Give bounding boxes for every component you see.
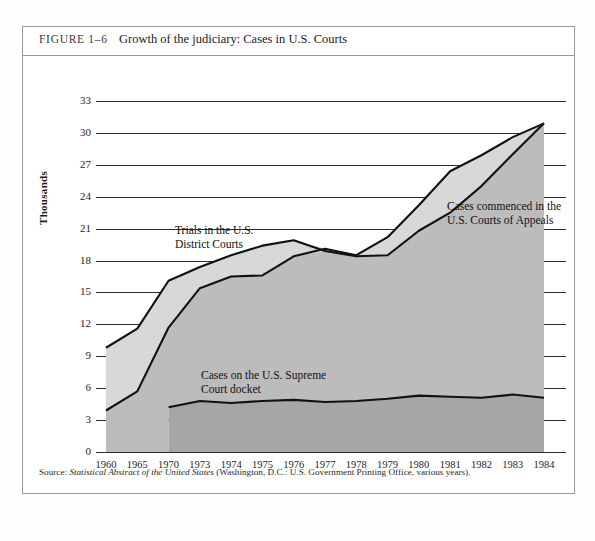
figure-title: Growth of the judiciary: Cases in U.S. C… (119, 32, 347, 47)
annotation-appeals: Cases commenced in the U.S. Courts of Ap… (447, 199, 561, 227)
figure-number-label: FIGURE 1–6 (39, 33, 108, 45)
figure-page: FIGURE 1–6 Growth of the judiciary: Case… (0, 0, 595, 541)
annotation-supreme-line2: Court docket (201, 382, 326, 396)
annotation-supreme-court: Cases on the U.S. Supreme Court docket (201, 368, 326, 396)
source-note: Source: Statistical Abstract of the Unit… (39, 467, 470, 477)
annotation-appeals-line2: U.S. Courts of Appeals (447, 213, 561, 227)
figure-frame: FIGURE 1–6 Growth of the judiciary: Case… (22, 26, 575, 494)
annotation-supreme-line1: Cases on the U.S. Supreme (201, 368, 326, 382)
annotation-district-courts: Trials in the U.S. District Courts (175, 223, 254, 251)
chart-plot-area: Thousands Years 03691215182124273033 196… (23, 55, 574, 463)
annotation-appeals-line1: Cases commenced in the (447, 199, 561, 213)
annotation-district-line2: District Courts (175, 237, 254, 251)
source-rest: (Washington, D.C.: U.S. Government Print… (214, 467, 471, 477)
source-prefix: Source: (39, 467, 69, 477)
source-publication: Statistical Abstract of the United State… (69, 467, 214, 477)
chart-series-layer (23, 55, 574, 463)
figure-header: FIGURE 1–6 Growth of the judiciary: Case… (23, 27, 574, 56)
annotation-district-line1: Trials in the U.S. (175, 223, 254, 237)
